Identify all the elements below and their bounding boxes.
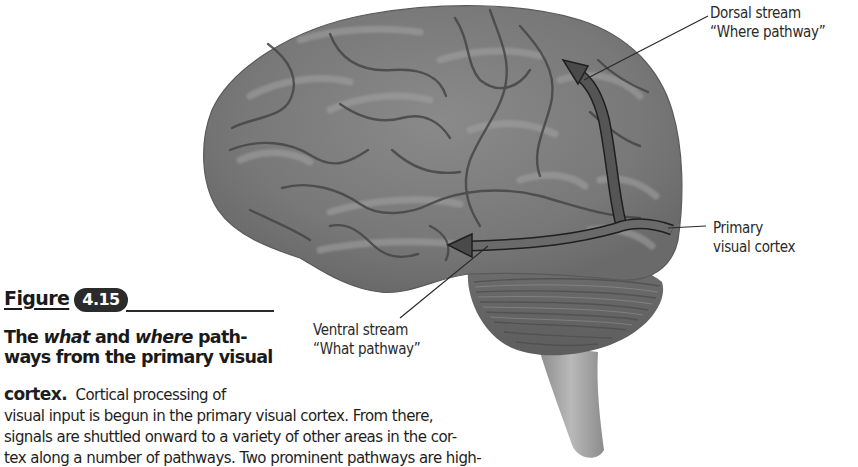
- caption-lead: cortex. Cortical processing of: [4, 384, 564, 406]
- dorsal-stream-pathway: “Where pathway”: [710, 23, 825, 42]
- caption-lead-text: Cortical processing of: [67, 386, 226, 404]
- figure-caption: cortex. Cortical processing of visual in…: [4, 384, 564, 467]
- title-emphasis-what: what: [44, 327, 90, 347]
- dorsal-stream-name: Dorsal stream: [710, 4, 825, 23]
- caption-line: visual input is begun in the primary vis…: [4, 406, 564, 427]
- figure-word: Figure: [4, 287, 69, 309]
- primary-label-line2: visual cortex: [713, 238, 795, 257]
- title-text: ways from the primary visual: [4, 347, 273, 367]
- caption-line: tex along a number of pathways. Two prom…: [4, 448, 564, 467]
- ventral-stream-name: Ventral stream: [313, 321, 421, 340]
- ventral-stream-pathway: “What pathway”: [313, 340, 421, 359]
- title-text: path-: [193, 327, 247, 347]
- figure-rule: [126, 310, 274, 312]
- primary-visual-cortex-label: Primary visual cortex: [713, 219, 795, 257]
- caption-lead-bold: cortex.: [4, 384, 67, 404]
- dorsal-stream-label: Dorsal stream “Where pathway”: [710, 4, 825, 42]
- ventral-stream-label: Ventral stream “What pathway”: [313, 321, 421, 359]
- caption-line: signals are shuttled onward to a variety…: [4, 427, 564, 448]
- primary-label-line1: Primary: [713, 219, 795, 238]
- figure-heading: Figure 4.15: [4, 289, 274, 315]
- figure-title: The what and where path- ways from the p…: [4, 327, 304, 367]
- title-text: and: [90, 327, 135, 347]
- figure-number-badge: 4.15: [74, 288, 128, 312]
- title-text: The: [4, 327, 44, 347]
- title-emphasis-where: where: [135, 327, 193, 347]
